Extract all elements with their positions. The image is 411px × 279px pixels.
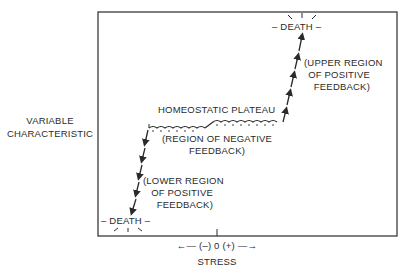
- negative-feedback-line1: (REGION OF NEGATIVE: [150, 133, 284, 145]
- upper-positive-line2: OF POSITIVE: [304, 69, 370, 81]
- x-axis-label: STRESS: [167, 256, 267, 268]
- death-upper-label: – DEATH –: [272, 21, 321, 33]
- plateau-dots: [152, 124, 274, 132]
- death-lower-label: – DEATH –: [101, 215, 150, 227]
- homeostatic-plateau-curve: [149, 121, 277, 129]
- homeostatic-plateau-label: HOMEOSTATIC PLATEAU: [158, 104, 275, 116]
- lower-positive-feedback-label: (LOWER REGION OF POSITIVE FEEDBACK): [143, 175, 213, 211]
- upper-positive-line3: FEEDBACK): [304, 81, 370, 93]
- lower-positive-line3: FEEDBACK): [143, 199, 213, 211]
- y-axis-label-line2: CHARACTERISTIC: [2, 127, 98, 140]
- negative-feedback-line2: FEEDBACK): [150, 145, 284, 157]
- x-axis-scale: ←— (–) 0 (+) —→: [167, 240, 267, 252]
- lower-positive-line2: OF POSITIVE: [143, 187, 213, 199]
- upper-positive-feedback-label: (UPPER REGION OF POSITIVE FEEDBACK): [304, 57, 370, 93]
- negative-feedback-label: (REGION OF NEGATIVE FEEDBACK): [150, 133, 284, 157]
- upper-positive-line1: (UPPER REGION: [304, 57, 370, 69]
- upper-death-rays-icon: [288, 13, 316, 19]
- y-axis-label-line1: VARIABLE: [2, 114, 98, 127]
- y-axis-label: VARIABLE CHARACTERISTIC: [2, 114, 98, 140]
- lower-positive-line1: (LOWER REGION: [143, 175, 213, 187]
- lower-death-rays-icon: [114, 228, 142, 232]
- upper-positive-feedback-arrows: [283, 36, 302, 122]
